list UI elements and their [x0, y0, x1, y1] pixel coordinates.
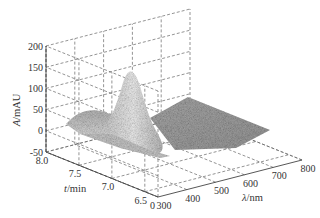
lambda-tick-label: 400	[185, 193, 200, 204]
grid-line	[46, 9, 190, 46]
lambda-axis-label: λ/nm	[241, 192, 263, 203]
t-axis-ticks: 8.07.57.06.5	[36, 155, 147, 206]
surface	[66, 72, 270, 158]
surface-chart: 200150100500-50 8.07.57.06.5 30040050060…	[0, 0, 320, 218]
t-tick-label: 7.0	[102, 181, 115, 192]
grid-line	[75, 145, 187, 190]
z-axis-label: A/mAU	[11, 93, 22, 127]
t-axis-label: t/min	[64, 183, 87, 194]
z-tick-label: 0	[38, 125, 43, 136]
lambda-tick-label: 300	[157, 200, 172, 211]
t-tick-label: 6.5	[135, 195, 148, 206]
z-tick-label: 100	[28, 83, 43, 94]
lambda-tick-label: 500	[214, 185, 229, 196]
z-axis-ticks: 200150100500-50	[28, 41, 43, 158]
t-tick-label: 8.0	[36, 155, 49, 166]
grid-line	[46, 51, 190, 88]
corner-zero-label: 0	[150, 200, 155, 211]
z-tick-label: 200	[28, 41, 43, 52]
z-tick-label: 50	[33, 104, 43, 115]
z-tick-label: 150	[28, 62, 43, 73]
t-tick-label: 7.5	[69, 168, 82, 179]
lambda-tick-label: 800	[301, 163, 316, 174]
lambda-tick-label: 700	[272, 170, 287, 181]
grid-line	[46, 30, 190, 67]
lambda-tick-label: 600	[243, 178, 258, 189]
